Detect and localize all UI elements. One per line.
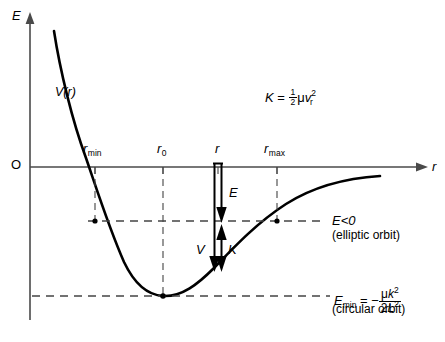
tick-r0-base: r [157,141,161,156]
tick-label-r: r [215,142,219,157]
formula-half-den: 2 [289,98,298,108]
y-axis-label: E [12,9,21,24]
potential-energy-diagram: E r O V(r) rmin r0 r rmax E V K K = 12μv… [0,0,445,342]
tick-rmin-sub: min [88,148,102,158]
curve-label: V(r) [55,85,76,99]
tick-label-rmax: rmax [264,142,284,157]
vector-V [209,163,219,272]
tick-label-rmin: rmin [83,142,101,157]
tick-rmax-sub: max [269,148,285,158]
vector-label-V: V [196,243,205,258]
min-energy-k-exponent: 2 [394,285,399,295]
y-axis [26,12,35,320]
x-axis-ticks [95,167,277,174]
tick-rmax-base: r [264,141,268,156]
formula-v-subscript: r [310,97,313,107]
tick-rmin-base: r [83,141,87,156]
formula-eq: = [277,90,285,105]
energy-vectors [209,163,226,272]
tick-r0-sub: 0 [162,148,167,158]
formula-mu: μ [297,90,305,105]
level-E-negative [88,218,325,223]
vector-label-E: E [229,186,238,201]
tick-r-base: r [215,141,219,156]
formula-half-fraction: 12 [289,88,298,108]
energy-level-note: (elliptic orbit) [332,229,400,243]
vector-label-K: K [228,243,237,258]
energy-level-text: E<0 [332,213,356,228]
x-axis-label: r [432,160,436,175]
min-energy-note: (circular orbit) [332,303,405,317]
formula-K: K [265,90,274,105]
tick-label-r0: r0 [157,142,166,157]
min-energy-mu: μ [381,287,388,301]
origin-label: O [11,158,21,173]
energy-level-label: E<0 [332,214,356,229]
kinetic-energy-formula: K = 12μv2r [265,88,313,108]
